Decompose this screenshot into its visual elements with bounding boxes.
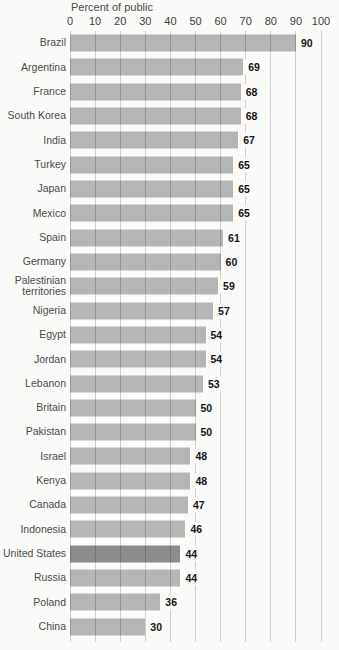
x-axis-tick: 60 [214,15,226,27]
bar-row: Spain 61 [0,226,339,250]
value-label: 57 [214,303,233,318]
value-label: 48 [191,449,210,464]
bar-area: 53 [70,371,339,395]
bar-area: 67 [70,128,339,152]
value-label: 90 [297,36,316,51]
bar [70,448,190,465]
bar-area: 57 [70,298,339,322]
bar [70,108,241,125]
bar [70,229,223,246]
value-label: 53 [204,376,223,391]
value-label: 65 [234,157,253,172]
bar-row: Japan 65 [0,177,339,201]
category-label: Lebanon [0,371,70,395]
bar-row: Poland 36 [0,590,339,614]
bar-area: 65 [70,153,339,177]
bar-area: 90 [70,31,339,55]
bar [70,253,221,270]
bar-area: 46 [70,517,339,541]
bar-area: 54 [70,323,339,347]
bar-row: Israel 48 [0,444,339,468]
bar-area: 60 [70,250,339,274]
category-label: Britain [0,396,70,420]
bar-area: 50 [70,396,339,420]
value-label: 68 [242,84,261,99]
bar [70,375,203,392]
bar-area: 44 [70,542,339,566]
category-label: Nigeria [0,298,70,322]
bar-row: Lebanon 53 [0,371,339,395]
bar-area: 44 [70,566,339,590]
bar-row: Palestinian territories 59 [0,274,339,298]
bar-row: Russia 44 [0,566,339,590]
category-label: France [0,80,70,104]
bar-area: 30 [70,615,339,639]
bar-area: 65 [70,177,339,201]
category-label: Kenya [0,469,70,493]
bar-row: Kenya 48 [0,469,339,493]
bar [70,302,213,319]
category-label: Russia [0,566,70,590]
bar [70,545,180,562]
value-label: 59 [219,279,238,294]
x-axis: 0102030405060708090100 [0,15,339,28]
bar-row: Brazil 90 [0,31,339,55]
bar-row: Egypt 54 [0,323,339,347]
x-axis-tick: 50 [189,15,201,27]
bar [70,618,145,635]
bar-area: 69 [70,55,339,79]
bar [70,35,296,52]
bar-area: 36 [70,590,339,614]
category-label: United States [0,542,70,566]
category-label: South Korea [0,104,70,128]
x-axis-tick: 70 [240,15,252,27]
value-label: 50 [197,400,216,415]
chart-title: Percent of public [71,1,153,13]
bar-area: 47 [70,493,339,517]
category-label: Mexico [0,201,70,225]
value-label: 69 [244,60,263,75]
bar-area: 65 [70,201,339,225]
category-label: Brazil [0,31,70,55]
category-label: Canada [0,493,70,517]
bar-row: France 68 [0,80,339,104]
bar [70,594,160,611]
bar-area: 68 [70,80,339,104]
category-label: Germany [0,250,70,274]
bar-row: China 30 [0,615,339,639]
value-label: 65 [234,206,253,221]
x-axis-tick: 10 [89,15,101,27]
value-label: 67 [239,133,258,148]
value-label: 44 [181,546,200,561]
plot-area: Brazil 90 Argentina 69 France 68 South K… [0,31,339,639]
value-label: 46 [186,522,205,537]
category-label: Poland [0,590,70,614]
bar [70,205,233,222]
bar-area: 59 [70,274,339,298]
value-label: 44 [181,571,200,586]
bar-area: 61 [70,226,339,250]
x-axis-tick: 30 [139,15,151,27]
bar-row: Pakistan 50 [0,420,339,444]
value-label: 30 [146,619,165,634]
bar-area: 48 [70,444,339,468]
bar [70,132,238,149]
value-label: 65 [234,182,253,197]
bar-area: 54 [70,347,339,371]
bar-row: Indonesia 46 [0,517,339,541]
bar [70,497,188,514]
value-label: 54 [207,327,226,342]
value-label: 36 [161,595,180,610]
category-label: Israel [0,444,70,468]
x-axis-tick: 90 [290,15,302,27]
bar [70,570,180,587]
bar-area: 68 [70,104,339,128]
bar-area: 50 [70,420,339,444]
category-label: Spain [0,226,70,250]
value-label: 54 [207,352,226,367]
bar-area: 48 [70,469,339,493]
bar-row: Canada 47 [0,493,339,517]
bar [70,59,243,76]
category-label: Palestinian territories [0,274,70,298]
bar [70,278,218,295]
